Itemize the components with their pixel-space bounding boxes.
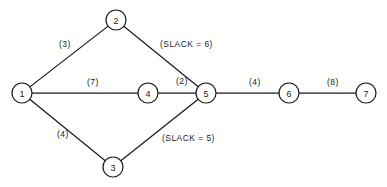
edge-3-5 xyxy=(121,99,198,161)
node-label-3: 3 xyxy=(110,163,115,173)
network-diagram-svg: 1234567 (3)(SLACK = 6)(7)(2)(4)(SLACK = … xyxy=(0,0,387,187)
edge-label-5-6: (4) xyxy=(249,77,261,87)
node-3[interactable]: 3 xyxy=(103,157,123,177)
node-6[interactable]: 6 xyxy=(279,83,299,103)
node-label-4: 4 xyxy=(145,89,150,99)
node-label-1: 1 xyxy=(19,89,24,99)
edge-label-4-5: (2) xyxy=(176,76,188,86)
node-1[interactable]: 1 xyxy=(12,83,32,103)
node-label-6: 6 xyxy=(286,89,291,99)
edge-label-1-4: (7) xyxy=(87,77,99,87)
edge-label-1-2: (3) xyxy=(59,39,71,49)
edge-label-1-3: (4) xyxy=(57,129,69,139)
node-label-5: 5 xyxy=(203,89,208,99)
node-5[interactable]: 5 xyxy=(196,83,216,103)
node-label-2: 2 xyxy=(113,16,118,26)
network-diagram-canvas: 1234567 (3)(SLACK = 6)(7)(2)(4)(SLACK = … xyxy=(0,0,387,187)
node-label-7: 7 xyxy=(363,89,368,99)
edge-label-2-5: (SLACK = 6) xyxy=(160,39,213,49)
edge-label-6-7: (8) xyxy=(327,77,339,87)
node-2[interactable]: 2 xyxy=(106,10,126,30)
node-4[interactable]: 4 xyxy=(138,83,158,103)
node-7[interactable]: 7 xyxy=(356,83,376,103)
edge-label-3-5: (SLACK = 5) xyxy=(162,133,215,143)
